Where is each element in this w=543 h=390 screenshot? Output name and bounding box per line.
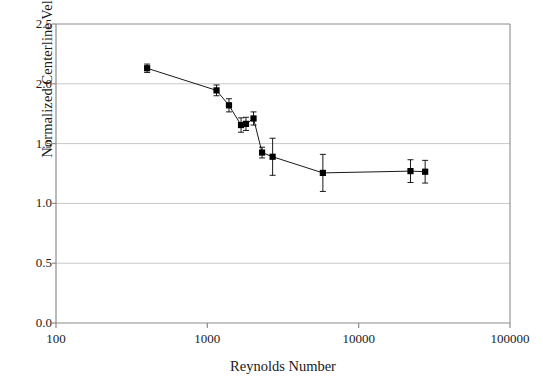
data-point-11: [422, 160, 428, 183]
plot-canvas: [0, 0, 543, 390]
data-point-3: [226, 99, 232, 112]
marker-square: [213, 87, 219, 93]
marker-square: [320, 170, 326, 176]
marker-square: [144, 65, 150, 71]
data-point-1: [144, 64, 150, 72]
marker-square: [422, 169, 428, 175]
data-point-2: [213, 85, 219, 96]
marker-square: [226, 102, 232, 108]
marker-square: [407, 168, 413, 174]
marker-square: [259, 149, 265, 155]
data-point-10: [407, 160, 413, 183]
data-point-9: [320, 154, 326, 191]
marker-square: [270, 154, 276, 160]
data-point-5: [243, 117, 249, 130]
data-point-7: [259, 147, 265, 158]
data-point-6: [250, 112, 256, 125]
chart-figure: Normalized Centerline Velocity, Uc/Uavg …: [0, 0, 543, 390]
marker-square: [243, 121, 249, 127]
marker-square: [250, 115, 256, 121]
